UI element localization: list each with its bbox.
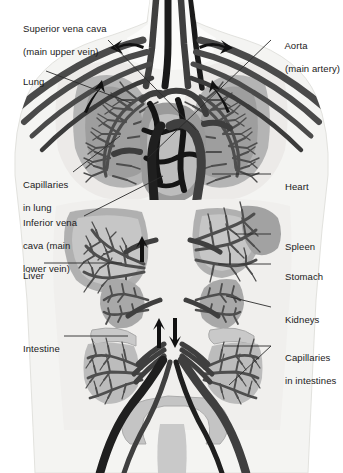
label-capillaries-in-intestines: Capillaries in intestines: [274, 340, 336, 398]
label-aorta: Aorta (main artery): [274, 28, 340, 86]
label-liver: Liver: [12, 258, 44, 293]
label-kidneys: Kidneys: [274, 302, 319, 337]
label-intestine: Intestine: [12, 331, 60, 366]
label-heart: Heart: [274, 169, 309, 204]
label-stomach: Stomach: [274, 259, 323, 294]
label-superior-vena-cava: Superior vena cava (main upper vein): [12, 11, 107, 69]
label-lung: Lung: [12, 64, 45, 99]
diagram-canvas: Superior vena cava (main upper vein) Lun…: [0, 0, 343, 473]
